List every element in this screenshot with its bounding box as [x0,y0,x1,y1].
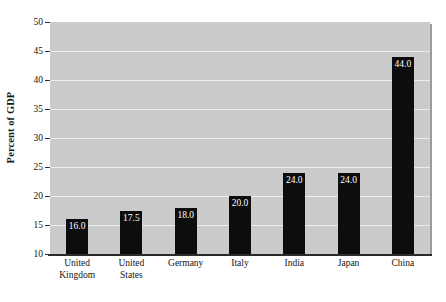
category-label-line: Italy [213,258,267,270]
gridline [50,80,430,81]
gridline [50,138,430,139]
plot-area: 16.017.518.020.024.024.044.0 [50,22,430,254]
y-axis-tick-label: 20 [3,191,43,201]
bar-value-label: 44.0 [392,59,414,69]
bar-value-label: 20.0 [229,198,251,208]
category-label-line: States [104,270,158,282]
bar-value-label: 24.0 [283,175,305,185]
gridline [50,167,430,168]
y-axis-tick-label: 15 [3,220,43,230]
bar-value-label: 16.0 [66,221,88,231]
x-axis-category-label: Germany [159,258,213,270]
bar-value-label: 17.5 [120,213,142,223]
bar[interactable]: 24.0 [283,173,305,254]
bar-value-label: 18.0 [175,210,197,220]
gridline [50,109,430,110]
x-axis-category-label: UnitedKingdom [50,258,104,281]
x-axis-category-label: China [376,258,430,270]
y-axis-title: Percent of GDP [0,0,22,254]
x-axis-category-label: India [267,258,321,270]
bar[interactable]: 18.0 [175,208,197,254]
category-label-line: China [376,258,430,270]
y-axis-tick-label: 35 [3,104,43,114]
x-axis-category-label: UnitedStates [104,258,158,281]
y-axis-tick-label: 45 [3,46,43,56]
y-axis-tick-label: 25 [3,162,43,172]
y-axis-tick-label: 30 [3,133,43,143]
bar[interactable]: 16.0 [66,219,88,254]
y-axis-tick-label: 10 [3,249,43,259]
x-axis-category-label: Japan [321,258,375,270]
bar-chart: Percent of GDP 101520253035404550 16.017… [0,0,446,302]
bar[interactable]: 44.0 [392,57,414,254]
category-label-line: Kingdom [50,270,104,282]
x-axis-line [48,254,432,256]
category-label-line: United [50,258,104,270]
y-axis-tick-label: 40 [3,75,43,85]
category-label-line: United [104,258,158,270]
bar-value-label: 24.0 [338,175,360,185]
bar[interactable]: 17.5 [120,211,142,255]
gridline [50,51,430,52]
category-label-line: Germany [159,258,213,270]
category-label-line: India [267,258,321,270]
category-label-line: Japan [321,258,375,270]
bar[interactable]: 24.0 [338,173,360,254]
y-axis-tick-label: 50 [3,17,43,27]
x-axis-category-label: Italy [213,258,267,270]
bar[interactable]: 20.0 [229,196,251,254]
y-axis-title-text: Percent of GDP [6,91,17,163]
